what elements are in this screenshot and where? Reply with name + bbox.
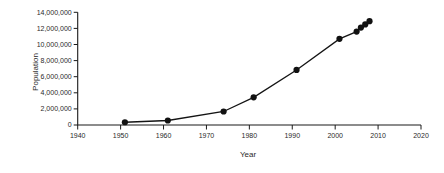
axes — [78, 12, 421, 125]
data-point — [165, 117, 171, 123]
x-tick-label: 2000 — [327, 132, 343, 139]
x-tick-label: 1970 — [199, 132, 215, 139]
data-point — [122, 119, 128, 125]
x-tick-label: 1990 — [284, 132, 300, 139]
y-tick-label: 0 — [68, 121, 72, 128]
y-tick-label: 2,000,000 — [41, 105, 72, 112]
y-axis-title: Population — [31, 53, 40, 91]
x-tick-label: 1940 — [70, 132, 86, 139]
y-tick-label: 14,000,000 — [37, 9, 72, 16]
data-point — [251, 94, 257, 100]
data-point — [293, 67, 299, 73]
plot-area: 02,000,0004,000,0006,000,0008,000,00010,… — [37, 9, 429, 139]
chart-canvas: 02,000,0004,000,0006,000,0008,000,00010,… — [0, 0, 444, 173]
x-axis-title: Year — [240, 150, 257, 159]
x-tick-label: 1960 — [156, 132, 172, 139]
x-tick-label: 1950 — [113, 132, 129, 139]
population-trend-line — [125, 21, 370, 122]
data-point — [336, 36, 342, 42]
x-tick-label: 1980 — [242, 132, 258, 139]
data-point — [221, 108, 227, 114]
population-line-chart: 02,000,0004,000,0006,000,0008,000,00010,… — [0, 0, 444, 173]
y-tick-label: 8,000,000 — [41, 57, 72, 64]
y-tick-label: 6,000,000 — [41, 73, 72, 80]
x-tick-label: 2010 — [370, 132, 386, 139]
x-tick-label: 2020 — [413, 132, 429, 139]
y-tick-label: 4,000,000 — [41, 89, 72, 96]
y-tick-label: 10,000,000 — [37, 41, 72, 48]
data-point — [366, 18, 372, 24]
y-tick-label: 12,000,000 — [37, 25, 72, 32]
